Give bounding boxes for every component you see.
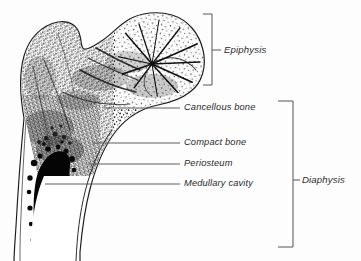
bone-body	[0, 0, 361, 261]
label-medullary-cavity: Medullary cavity	[184, 179, 253, 188]
label-diaphysis: Diaphysis	[302, 175, 345, 185]
diaphysis-bracket	[278, 101, 300, 247]
epiphysis-bracket	[203, 14, 221, 85]
label-cancellous-bone: Cancellous bone	[184, 103, 256, 112]
label-periosteum: Periosteum	[184, 159, 233, 168]
femur-diagram-figure: Cancellous bone Compact bone Periosteum …	[0, 0, 361, 261]
femur-illustration-svg	[0, 0, 361, 261]
label-compact-bone: Compact bone	[184, 138, 246, 147]
label-epiphysis: Epiphysis	[224, 45, 266, 55]
